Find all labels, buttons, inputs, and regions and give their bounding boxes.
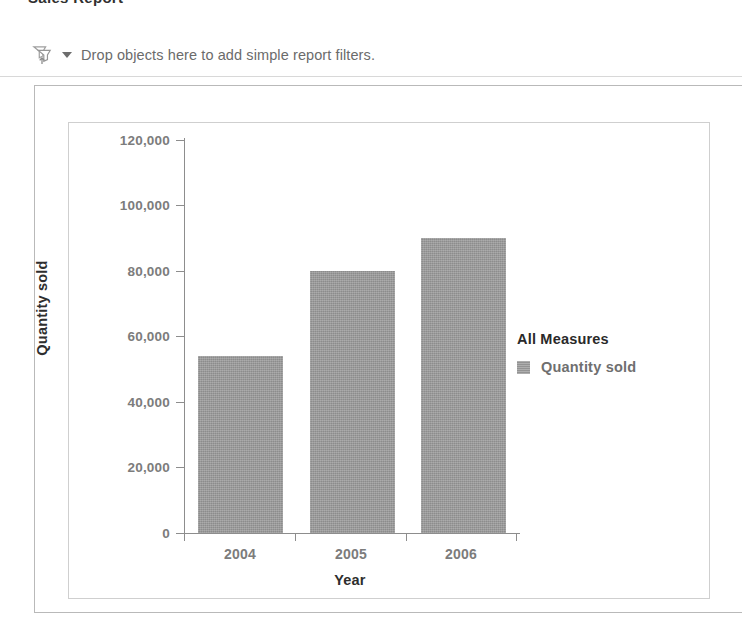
bar-2006[interactable] [421,238,506,533]
x-axis-line [180,533,520,534]
bar-2005[interactable] [310,271,395,533]
x-tick-start [184,533,185,541]
legend-item-quantity-sold[interactable]: Quantity sold [517,359,707,375]
cropped-title-text: Sales Report [28,0,123,6]
y-tick-5 [176,205,185,206]
y-tick-label-100000: 100,000 [78,198,170,213]
cropped-title-strip: Sales Report [0,0,742,10]
x-tick-end [516,533,517,541]
y-tick-1 [176,467,185,468]
filter-drop-hint-text: Drop objects here to add simple report f… [81,47,375,63]
y-tick-label-120000: 120,000 [78,133,170,148]
plot-area [185,140,515,533]
y-tick-4 [176,271,185,272]
y-tick-3 [176,336,185,337]
x-tick-label-2004: 2004 [185,546,295,562]
y-tick-label-0: 0 [78,526,170,541]
chart-legend: All Measures Quantity sold [517,331,707,375]
legend-swatch-icon [517,361,530,374]
y-tick-2 [176,402,185,403]
bar-2004[interactable] [198,356,283,533]
chevron-down-icon[interactable] [62,52,72,58]
y-tick-label-40000: 40,000 [78,395,170,410]
drop-objects-filter-icon [31,45,53,65]
y-tick-label-20000: 20,000 [78,460,170,475]
legend-title: All Measures [517,331,707,347]
x-tick-label-2006: 2006 [406,546,516,562]
x-tick-label-2005: 2005 [296,546,406,562]
x-axis-title: Year [185,572,515,588]
x-tick-2 [406,533,407,541]
y-axis-title: Quantity sold [34,228,50,388]
y-tick-label-60000: 60,000 [78,329,170,344]
report-filter-bar[interactable]: Drop objects here to add simple report f… [0,36,742,74]
y-tick-6 [176,140,185,141]
filter-bar-divider [0,76,742,77]
legend-item-label: Quantity sold [541,359,636,375]
y-tick-label-80000: 80,000 [78,264,170,279]
x-tick-1 [295,533,296,541]
